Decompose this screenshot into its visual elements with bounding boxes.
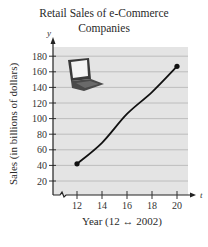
y-tick-label: 100 bbox=[32, 113, 47, 124]
x-tick-label: 14 bbox=[97, 200, 107, 211]
x-tick-label: 12 bbox=[72, 200, 82, 211]
x-tick-label: 16 bbox=[122, 200, 132, 211]
y-tick-label: 140 bbox=[32, 82, 47, 93]
y-axis-arrow bbox=[51, 37, 56, 44]
y-tick-label: 60 bbox=[37, 144, 47, 155]
y-axis-variable: y bbox=[46, 28, 51, 38]
x-tick-label: 20 bbox=[172, 200, 182, 211]
x-tick-label: 18 bbox=[147, 200, 157, 211]
endpoint-marker bbox=[74, 161, 79, 166]
line-chart: 20406080100120140160180yt1214161820 bbox=[0, 0, 208, 247]
x-axis-variable: t bbox=[200, 190, 203, 200]
x-axis-arrow bbox=[190, 193, 196, 198]
y-tick-label: 120 bbox=[32, 98, 47, 109]
y-tick-label: 160 bbox=[32, 66, 47, 77]
y-tick-label: 80 bbox=[37, 129, 47, 140]
endpoint-marker bbox=[174, 64, 179, 69]
y-tick-label: 40 bbox=[37, 160, 47, 171]
y-tick-label: 180 bbox=[32, 51, 47, 62]
y-tick-label: 20 bbox=[37, 176, 47, 187]
